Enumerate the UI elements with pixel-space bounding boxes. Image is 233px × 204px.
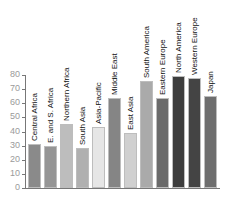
bar-northern-africa xyxy=(60,124,73,188)
bar-label: Eastern Europe xyxy=(158,39,167,95)
bar-middle-east xyxy=(108,98,121,188)
bar-label: Middle East xyxy=(110,53,119,95)
bar-north-america xyxy=(172,76,185,188)
y-tick-mark xyxy=(22,174,25,175)
y-tick-label: 10 xyxy=(2,169,20,178)
bar-label: East Asia xyxy=(126,97,135,130)
x-axis-line xyxy=(25,188,220,189)
bar-label: Central Africa xyxy=(30,93,39,141)
bar-japan xyxy=(204,96,217,188)
y-axis-line xyxy=(25,75,26,189)
y-tick-label: 30 xyxy=(2,141,20,150)
y-tick-label: 80 xyxy=(2,70,20,79)
bar-chart: 01020304050607080 Central AfricaE. and S… xyxy=(0,0,233,204)
y-tick-mark xyxy=(22,146,25,147)
y-tick-mark xyxy=(22,132,25,133)
bar-label: South America xyxy=(142,26,151,78)
bar-e-and-s-africa xyxy=(44,146,57,188)
bar-eastern-europe xyxy=(156,98,169,188)
y-tick-label: 70 xyxy=(2,84,20,93)
bar-label: Northern Africa xyxy=(62,68,71,121)
y-tick-mark xyxy=(22,103,25,104)
bar-label: E. and S. Africa xyxy=(46,88,55,143)
y-tick-mark xyxy=(22,188,25,189)
bar-south-asia xyxy=(76,148,89,188)
bar-label: Western Europe xyxy=(190,17,199,75)
y-tick-mark xyxy=(22,160,25,161)
bar-south-america xyxy=(140,81,153,188)
bar-central-africa xyxy=(28,144,41,188)
y-tick-label: 0 xyxy=(2,183,20,192)
y-tick-mark xyxy=(22,75,25,76)
bar-label: Japan xyxy=(206,71,215,93)
bar-label: North America xyxy=(174,22,183,73)
y-tick-label: 20 xyxy=(2,155,20,164)
y-tick-label: 60 xyxy=(2,98,20,107)
bar-western-europe xyxy=(188,78,201,188)
bar-label: South Asia xyxy=(78,107,87,145)
bar-label: Asia-Pacific xyxy=(94,82,103,124)
bar-east-asia xyxy=(124,133,137,188)
y-tick-label: 40 xyxy=(2,127,20,136)
y-tick-mark xyxy=(22,89,25,90)
bar-asia-pacific xyxy=(92,127,105,188)
y-tick-mark xyxy=(22,117,25,118)
y-tick-label: 50 xyxy=(2,112,20,121)
